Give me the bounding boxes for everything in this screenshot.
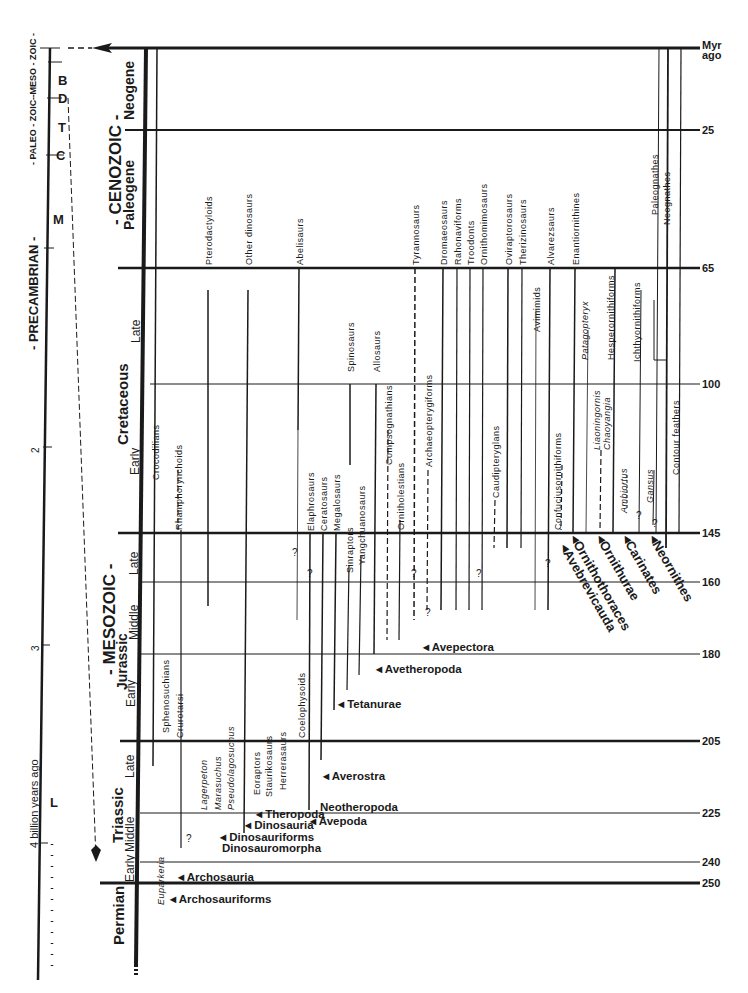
taxon-rahonaviforms: Rahonaviforms: [453, 198, 463, 265]
period-d: D: [58, 91, 67, 106]
taxon-lagerpeton: Lagerpeton: [199, 759, 209, 810]
tick-2: 2: [30, 447, 41, 453]
taxon-euparkeria: Euparkeria: [156, 856, 166, 905]
taxon-avimimids: Avimimids: [532, 287, 542, 332]
taxon-therizinosaurs: Therizinosaurs: [518, 199, 528, 265]
taxon-caudipteryglans: Caudipteryglans: [491, 425, 501, 498]
time-unit: Myrago: [702, 40, 722, 60]
tick-205: 205: [702, 735, 720, 747]
taxon-confuciusornithiforms: Confuciusornithiforms: [553, 432, 563, 530]
uncertain-mark: ?: [186, 833, 192, 844]
period-m: M: [53, 212, 64, 227]
epoch-cretaceous-late: Late: [129, 320, 143, 343]
taxon-rhamphorynchoids: Rhamphorynchoids: [174, 444, 184, 530]
uncertain-mark: ?: [652, 518, 658, 529]
period-c: C: [56, 148, 65, 163]
clade-archosauria: ◂ Archosauria: [178, 870, 254, 884]
period-b: B: [58, 73, 67, 88]
tick-145: 145: [702, 527, 720, 539]
epoch-triassic-late: Late: [123, 755, 137, 778]
period-cretaceous: Cretaceous: [114, 363, 131, 445]
taxon-other-dinosaurs: Other dinosaurs: [244, 193, 254, 265]
taxon-alvarezsaurs: Alvarezsaurs: [546, 207, 556, 265]
period-permian: Permian: [110, 886, 127, 945]
tick-240: 240: [702, 856, 720, 868]
epoch-triassic-middle: Middle: [123, 817, 137, 852]
uncertain-mark: ?: [411, 568, 417, 579]
period-l: L: [50, 795, 58, 810]
taxon-staurikosaurs: Staurikosaurs: [264, 735, 274, 797]
taxon-ambiortus: Ambiortus: [619, 468, 629, 513]
taxon-ceratosaurs: Ceratosaurs: [319, 476, 329, 531]
uncertain-mark: ?: [636, 510, 642, 521]
tick-3: 3: [30, 645, 41, 651]
taxon-coelophysoids: Coelophysoids: [297, 672, 307, 738]
tick-100: 100: [702, 378, 720, 390]
tick-1: 1: [30, 249, 40, 254]
taxon-gansus: Gansus: [645, 469, 655, 503]
tick-250: 250: [702, 877, 720, 889]
taxon-neognathes: Neognathes: [662, 171, 672, 225]
tick-180: 180: [702, 648, 720, 660]
clade-archosauriforms: ◂ Archosauriforms: [170, 892, 271, 906]
taxon-spinosaurs: Spinosaurs: [346, 322, 356, 372]
taxon-paleognathes: Paleognathes: [650, 154, 660, 215]
taxon-ornitholestians: Ornitholestians: [396, 462, 406, 530]
uncertain-mark: ?: [425, 607, 431, 618]
taxon-eoraptors: Eoraptors: [252, 751, 262, 795]
clade-averostra: ◂ Averostra: [323, 769, 385, 783]
taxon-sinraptors: Sinraptors: [345, 527, 355, 573]
tick-65: 65: [702, 262, 714, 274]
taxon-dromaeosaurs: Dromaeosaurs: [439, 200, 449, 265]
epoch-jurassic-middle: Middle: [127, 605, 141, 640]
uncertain-mark: ?: [545, 558, 551, 569]
tick-25: 25: [702, 124, 714, 136]
era-label-meso-zoic: - MESO - ZOIC -: [28, 33, 38, 100]
taxon-oviraptorosaurs: Oviraptorosaurs: [504, 193, 514, 265]
epoch-triassic-early: Early: [123, 855, 137, 882]
period-paleogene: Paleogene: [121, 160, 137, 230]
taxon-abelisaurs: Abelisaurs: [295, 218, 305, 265]
clade-avepoda: ◂ Avepoda: [310, 814, 367, 828]
taxon-crurotarsi: Crurotarsi: [175, 693, 185, 738]
tick-225: 225: [702, 807, 720, 819]
period-t: T: [58, 120, 66, 135]
taxon-yangchuanosaurs: Yangchuanosaurs: [357, 486, 367, 565]
taxon-pterodactyloids: Pterodactyloids: [204, 196, 214, 265]
taxon-sphenosuchians: Sphenosuchians: [161, 659, 171, 733]
taxon-patagopteryx: Patagopteryx: [580, 301, 590, 360]
taxon-tyrannosaurs: Tyrannosaurs: [411, 204, 421, 265]
taxon-contour-feathers: Contour feathers: [671, 400, 681, 475]
clade-avepectora: ◂ Avepectora: [423, 640, 494, 654]
taxon-ornithomimosaurs: Ornithomimosaurs: [479, 183, 489, 265]
epoch-cretaceous-early: Early: [128, 448, 142, 475]
epoch-jurassic-early: Early: [124, 680, 138, 707]
taxon-megalosaurs: Megalosaurs: [332, 474, 342, 531]
taxon-troodonts: Troodonts: [466, 220, 476, 265]
uncertain-mark: ?: [292, 547, 298, 558]
taxon-elaphrosaurs: Elaphrosaurs: [306, 472, 316, 531]
taxon-herrerasaurs: Herrerasaurs: [278, 731, 288, 790]
taxon-crocodilians: Crocodilians: [151, 424, 161, 480]
era-label-paleo-zoic: - PALEO - ZOIC -: [28, 94, 38, 165]
axis-label-billion-years: 4 billion years ago: [28, 759, 40, 848]
taxon-enantiornithines: Enantiornithines: [571, 192, 581, 265]
uncertain-mark: ?: [307, 568, 313, 579]
taxon-liaoningornis: Liaoningornis: [592, 390, 602, 450]
taxon-allosaurs: Allosaurs: [372, 330, 382, 372]
taxon-pseudolagosuchus: Pseudolagosuchus: [226, 726, 236, 810]
clade-avetheropoda: ◂ Avetheropoda: [376, 662, 462, 676]
clade-neotheropoda: Neotheropoda: [320, 801, 398, 813]
taxon-marasuchus: Marasuchus: [213, 756, 223, 810]
period-neogene: Neogene: [121, 61, 137, 120]
taxon-compsognathians: Compsognathians: [384, 385, 394, 465]
epoch-jurassic-late: Late: [127, 552, 141, 575]
tick-160: 160: [702, 576, 720, 588]
taxon-chaoyangia: Chaoyangia: [602, 397, 612, 450]
taxon-ichthyornithiforms: Ichthyornithiforms: [632, 282, 642, 362]
uncertain-mark: ?: [476, 568, 482, 579]
clade-tetanurae: ◂ Tetanurae: [338, 697, 401, 711]
clade-dinosauriforms: ◂ Dinosauriforms: [220, 830, 314, 844]
taxon-archaeopterygiforms: Archaeopterygiforms: [424, 374, 434, 467]
taxon-hesperornithiforms: Hesperornithiforms: [606, 275, 616, 360]
